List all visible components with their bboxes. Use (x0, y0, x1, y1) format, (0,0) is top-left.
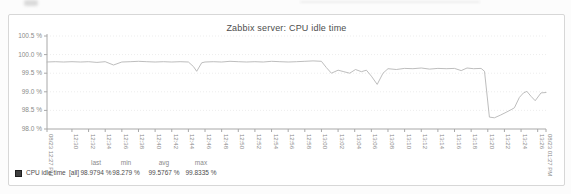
legend-series-label: CPU idle time (26, 169, 66, 176)
chart-legend: CPU idle time [all] last 98.9794 % min 9… (9, 15, 564, 185)
stat-max-header: max (179, 159, 223, 166)
scan-artifact (300, 1, 480, 3)
stat-max-value: 99.8335 % (179, 169, 223, 176)
chart-panel: Zabbix server: CPU idle time 100.5 %100.… (8, 14, 565, 186)
scan-artifact (24, 0, 38, 6)
legend-swatch (15, 170, 22, 177)
